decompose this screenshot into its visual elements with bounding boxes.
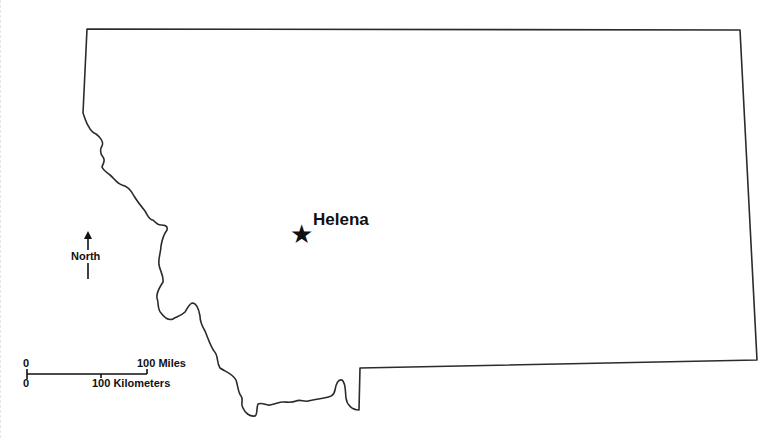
scale-miles-start: 0 [23, 357, 29, 369]
scale-km-start: 0 [23, 377, 29, 389]
capital-label: Helena [313, 210, 369, 230]
scale-miles-end: 100 Miles [137, 357, 186, 369]
capital-marker: ★ [290, 221, 313, 247]
map-canvas [0, 0, 776, 438]
scale-km-end: 100 Kilometers [92, 377, 170, 389]
star-icon: ★ [290, 219, 313, 249]
north-label: North [71, 250, 100, 262]
